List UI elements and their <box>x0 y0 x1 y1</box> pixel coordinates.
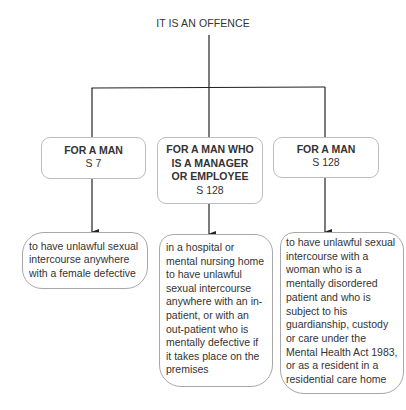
branch-2-header-box: FOR A MAN WHO IS A MANAGER OR EMPLOYEE S… <box>157 137 263 204</box>
root-node-label: IT IS AN OFFENCE <box>0 17 406 29</box>
branch-3-header-box: FOR A MAN S 128 <box>273 137 379 178</box>
branch-1-section-label: S 7 <box>42 157 145 170</box>
branch-3-description-box: to have unlawful sexual intercourse with… <box>280 232 404 394</box>
branch-3-who-label: FOR A MAN <box>274 143 378 156</box>
branch-bar-line <box>92 87 326 88</box>
branch-1-description-box: to have unlawful sexual intercourse anyw… <box>22 232 148 289</box>
branch-1-who-label: FOR A MAN <box>42 144 145 157</box>
branch-1-header-box: FOR A MAN S 7 <box>41 137 146 179</box>
branch-2-description-box: in a hospital or mental nursing home to … <box>159 234 273 387</box>
branch-3-section-label: S 128 <box>274 156 378 169</box>
branch-2-section-label: S 128 <box>158 184 262 198</box>
branch-2-who-label: FOR A MAN WHO IS A MANAGER OR EMPLOYEE <box>158 143 262 184</box>
